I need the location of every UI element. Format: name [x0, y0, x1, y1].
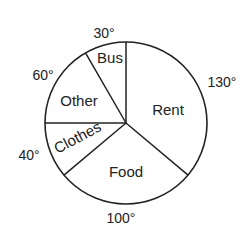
slice-label-bus: Bus: [97, 49, 123, 66]
angle-label-other: 60°: [32, 67, 53, 83]
slice-label-food: Food: [109, 163, 143, 180]
angle-label-clothes: 40°: [18, 147, 39, 163]
angle-label-rent: 130°: [208, 74, 237, 90]
angle-label-food: 100°: [107, 210, 136, 226]
slice-label-other: Other: [60, 92, 98, 109]
pie-chart: Rent Food Clothes Other Bus 130° 100° 40…: [0, 0, 246, 231]
angle-label-bus: 30°: [93, 25, 114, 41]
slice-label-rent: Rent: [152, 101, 185, 118]
